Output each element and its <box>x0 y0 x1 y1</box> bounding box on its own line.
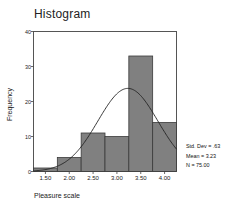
x-tick-label: 1.50 <box>40 175 52 181</box>
y-axis-title: Frequency <box>6 75 13 135</box>
x-tick-label: 3.50 <box>135 175 147 181</box>
mean-text: Mean = 3.23 <box>186 152 220 162</box>
y-tick-label: 40 <box>15 29 31 35</box>
n-text: N = 75.00 <box>186 161 220 171</box>
x-tick-label: 3.00 <box>111 175 123 181</box>
plot-area <box>33 31 177 172</box>
y-tick-label: 0 <box>15 169 31 175</box>
y-tick-label: 20 <box>15 99 31 105</box>
x-tick-label: 2.50 <box>87 175 99 181</box>
std-dev-text: Std. Dev = .63 <box>186 142 220 152</box>
chart-title: Histogram <box>34 7 90 21</box>
y-tick-label: 30 <box>15 64 31 70</box>
y-axis-tick-labels: 010203040 <box>12 0 31 213</box>
statistics-annotation: Std. Dev = .63 Mean = 3.23 N = 75.00 <box>186 142 220 171</box>
x-tick-label: 4.00 <box>159 175 171 181</box>
y-tick-label: 10 <box>15 134 31 140</box>
x-tick-label: 2.00 <box>63 175 75 181</box>
x-axis-title: Pleasure scale <box>34 192 80 199</box>
histogram-chart: Histogram 010203040 1.502.002.503.003.50… <box>0 0 239 213</box>
